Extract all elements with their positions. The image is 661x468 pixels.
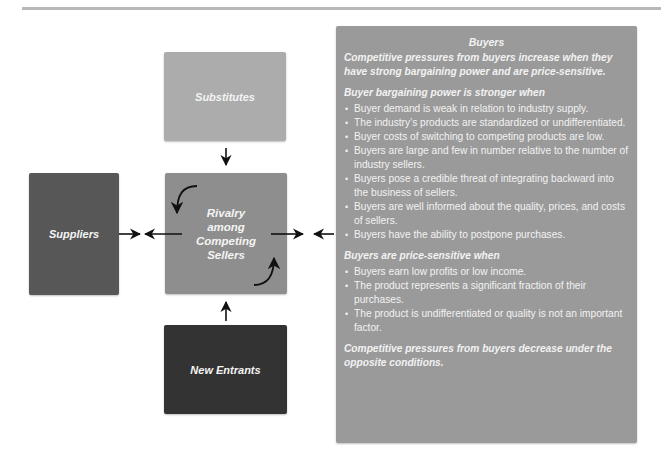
top-divider-rule bbox=[22, 7, 661, 10]
buyers-panel: Buyers Competitive pressures from buyers… bbox=[336, 26, 637, 443]
list-item: The product represents a significant fra… bbox=[344, 279, 629, 307]
price-sensitive-heading: Buyers are price-sensitive when bbox=[344, 249, 629, 263]
new-entrants-box: New Entrants bbox=[164, 325, 287, 414]
substitutes-box: Substitutes bbox=[164, 52, 286, 141]
rivalry-label-line: Competing bbox=[165, 234, 287, 248]
list-item: Buyers have the ability to postpone purc… bbox=[344, 228, 629, 242]
rivalry-box: Rivalry among Competing Sellers bbox=[165, 173, 287, 294]
substitutes-label: Substitutes bbox=[195, 91, 255, 103]
list-item: Buyers pose a credible threat of integra… bbox=[344, 172, 629, 200]
bargaining-power-heading: Buyer bargaining power is stronger when bbox=[344, 86, 629, 100]
rivalry-label-line: among bbox=[165, 220, 287, 234]
list-item: Buyer costs of switching to competing pr… bbox=[344, 130, 629, 144]
buyers-title: Buyers bbox=[344, 36, 629, 48]
list-item: The industry’s products are standardized… bbox=[344, 116, 629, 130]
price-sensitive-list: Buyers earn low profits or low income. T… bbox=[344, 265, 629, 335]
list-item: Buyers are large and few in number relat… bbox=[344, 144, 629, 172]
suppliers-box: Suppliers bbox=[29, 173, 119, 295]
list-item: Buyers are well informed about the quali… bbox=[344, 200, 629, 228]
list-item: Buyer demand is weak in relation to indu… bbox=[344, 102, 629, 116]
rivalry-label: Rivalry among Competing Sellers bbox=[165, 206, 287, 262]
buyers-outro: Competitive pressures from buyers decrea… bbox=[344, 342, 629, 370]
rivalry-label-line: Rivalry bbox=[165, 206, 287, 220]
list-item: Buyers earn low profits or low income. bbox=[344, 265, 629, 279]
bargaining-power-list: Buyer demand is weak in relation to indu… bbox=[344, 102, 629, 242]
list-item: The product is undifferentiated or quali… bbox=[344, 307, 629, 335]
rivalry-label-line: Sellers bbox=[165, 248, 287, 262]
suppliers-label: Suppliers bbox=[49, 228, 99, 240]
buyers-intro: Competitive pressures from buyers increa… bbox=[344, 51, 629, 79]
new-entrants-label: New Entrants bbox=[190, 364, 260, 376]
